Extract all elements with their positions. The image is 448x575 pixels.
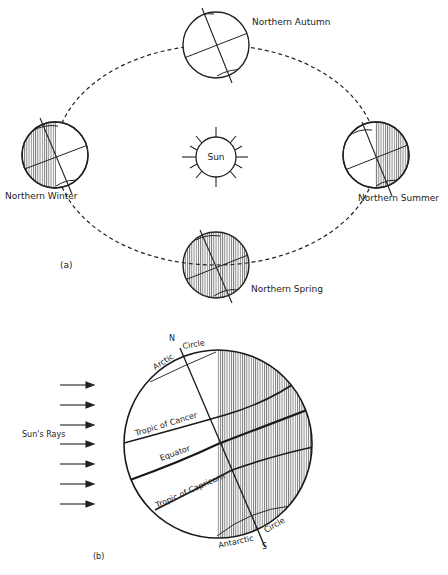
sun-rays-label: Sun's Rays <box>22 430 65 439</box>
north-label: N <box>169 334 175 343</box>
label-northern-spring: Northern Spring <box>251 284 323 294</box>
globe-northern-spring <box>183 230 249 303</box>
label-northern-autumn: Northern Autumn <box>252 17 330 27</box>
sun-label: Sun <box>207 152 224 162</box>
south-label: S <box>262 542 267 551</box>
globe-northern-summer <box>343 122 409 196</box>
globe-northern-winter <box>22 118 88 194</box>
detail-globe <box>124 348 317 547</box>
sun-rays <box>60 382 94 507</box>
label-northern-winter: Northern Winter <box>5 191 78 201</box>
panel-label-b: (b) <box>93 552 104 561</box>
panel-label-a: (a) <box>60 260 73 270</box>
arctic-circle-label: Circle <box>182 338 206 351</box>
globe-northern-autumn <box>183 8 249 83</box>
label-northern-summer: Northern Summer <box>358 193 439 203</box>
seasons-diagram: Sun Northern Autumn Northern Winter <box>0 0 448 575</box>
